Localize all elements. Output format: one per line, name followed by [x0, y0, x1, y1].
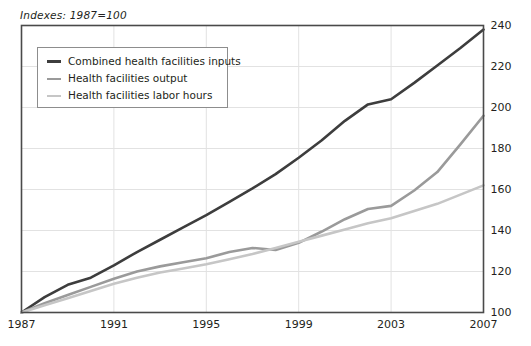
legend-label-labor-hours: Health facilities labor hours — [68, 90, 212, 101]
y-axis-tick-label: 220 — [491, 60, 512, 73]
x-axis-tick-label: 1995 — [181, 318, 231, 331]
legend-swatch-labor-hours — [47, 95, 61, 97]
legend-item-labor-hours: Health facilities labor hours — [47, 87, 212, 104]
x-axis-tick-label: 1999 — [274, 318, 324, 331]
legend-label-combined-inputs: Combined health facilities inputs — [68, 56, 241, 67]
x-axis-tick-label: 1991 — [89, 318, 139, 331]
y-axis-tick-label: 200 — [491, 101, 512, 114]
legend-swatch-combined-inputs — [47, 60, 61, 63]
y-axis-tick-label: 140 — [491, 224, 512, 237]
legend-item-combined-inputs: Combined health facilities inputs — [47, 53, 241, 70]
x-axis-tick-label: 1987 — [0, 318, 47, 331]
y-axis-tick-label: 240 — [491, 19, 512, 32]
line-chart: Indexes: 1987=100 1001201401601802002202… — [0, 0, 531, 346]
y-axis-tick-label: 120 — [491, 265, 512, 278]
chart-legend: Combined health facilities inputs Health… — [37, 47, 228, 108]
y-axis-tick-label: 180 — [491, 142, 512, 155]
x-axis-tick-label: 2007 — [459, 318, 509, 331]
series-line-health-facilities-output — [22, 116, 484, 313]
y-axis-tick-label: 160 — [491, 183, 512, 196]
legend-swatch-output — [47, 78, 61, 80]
x-axis-tick-label: 2003 — [366, 318, 416, 331]
legend-label-output: Health facilities output — [68, 73, 187, 84]
legend-item-output: Health facilities output — [47, 70, 187, 87]
